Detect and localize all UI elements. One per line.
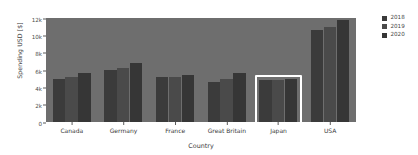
plot-area[interactable]: 02k4k6k8k10k12k CanadaGermanyFranceGreat… — [46, 18, 356, 122]
x-axis-label: Country — [46, 142, 356, 150]
bar-france-2019[interactable] — [169, 77, 181, 122]
bar-germany-2019[interactable] — [117, 68, 129, 122]
bar-usa-2020[interactable] — [337, 20, 349, 122]
bar-france-2020[interactable] — [182, 75, 194, 122]
y-tick-1: 2k — [35, 95, 46, 114]
y-tick-4: 8k — [35, 43, 46, 62]
bar-usa-2019[interactable] — [324, 27, 336, 122]
y-tick-mark — [43, 122, 46, 123]
y-tick-5: 10k — [32, 26, 46, 45]
bar-great-britain-2019[interactable] — [220, 79, 232, 122]
bar-canada-2019[interactable] — [65, 77, 77, 122]
legend-label: 2020 — [391, 32, 405, 38]
y-tick-mark — [43, 70, 46, 71]
bar-japan-2018[interactable] — [259, 80, 271, 122]
bar-great-britain-2018[interactable] — [208, 82, 220, 122]
x-tick-label: USA — [324, 127, 336, 134]
bar-canada-2020[interactable] — [78, 73, 90, 122]
y-tick-mark — [43, 35, 46, 36]
legend-swatch-icon — [382, 24, 387, 29]
bar-france-2018[interactable] — [156, 77, 168, 122]
y-tick-mark — [43, 53, 46, 54]
bar-canada-2018[interactable] — [53, 79, 65, 122]
legend-swatch-icon — [382, 33, 387, 38]
x-tick-label: Germany — [110, 127, 138, 134]
legend-item-2018[interactable]: 2018 — [382, 14, 405, 23]
bar-germany-2018[interactable] — [104, 70, 116, 122]
legend: 201820192020 — [382, 14, 405, 40]
x-tick-great-britain: Great Britain — [208, 122, 246, 134]
y-tick-label: 4k — [35, 85, 46, 91]
x-tick-japan: Japan — [270, 122, 287, 134]
x-tick-germany: Germany — [110, 122, 138, 134]
y-tick-label: 6k — [35, 68, 46, 74]
x-tick-france: France — [165, 122, 185, 134]
legend-swatch-icon — [382, 16, 387, 21]
y-axis-label: Spending USD [$] — [16, 0, 23, 106]
bar-japan-2019[interactable] — [272, 80, 284, 122]
y-tick-label: 8k — [35, 51, 46, 57]
x-tick-mark — [123, 122, 124, 125]
x-tick-canada: Canada — [60, 122, 83, 134]
bar-germany-2020[interactable] — [130, 63, 142, 122]
x-tick-mark — [330, 122, 331, 125]
y-tick-3: 6k — [35, 61, 46, 80]
legend-label: 2019 — [391, 24, 405, 30]
x-tick-label: Japan — [270, 127, 287, 134]
y-tick-label: 10k — [32, 33, 46, 39]
x-tick-mark — [226, 122, 227, 125]
x-tick-mark — [71, 122, 72, 125]
bar-great-britain-2020[interactable] — [233, 73, 245, 122]
y-tick-0: 0 — [38, 113, 46, 132]
x-tick-label: France — [165, 127, 185, 134]
bar-japan-2020[interactable] — [285, 79, 297, 122]
x-tick-mark — [175, 122, 176, 125]
bar-chart-figure: Spending USD [$] 02k4k6k8k10k12k CanadaG… — [0, 0, 418, 155]
y-tick-6: 12k — [32, 9, 46, 28]
bar-usa-2018[interactable] — [311, 30, 323, 122]
y-tick-label: 2k — [35, 103, 46, 109]
legend-label: 2018 — [391, 15, 405, 21]
legend-item-2020[interactable]: 2020 — [382, 31, 405, 40]
y-tick-mark — [43, 18, 46, 19]
y-tick-label: 0 — [38, 120, 46, 126]
y-tick-2: 4k — [35, 78, 46, 97]
legend-item-2019[interactable]: 2019 — [382, 23, 405, 32]
y-tick-label: 12k — [32, 16, 46, 22]
x-tick-label: Great Britain — [208, 127, 246, 134]
y-tick-mark — [43, 87, 46, 88]
x-tick-mark — [278, 122, 279, 125]
y-tick-mark — [43, 105, 46, 106]
x-tick-label: Canada — [60, 127, 83, 134]
x-tick-usa: USA — [324, 122, 336, 134]
